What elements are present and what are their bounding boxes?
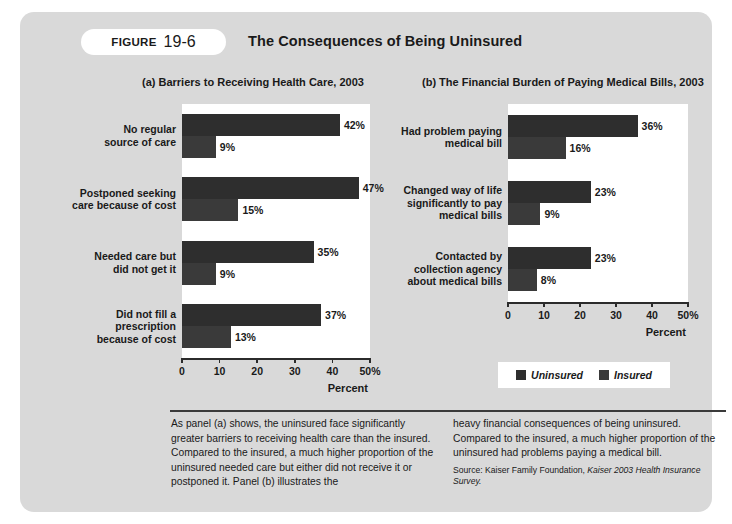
panel-a-bar-insured — [182, 263, 216, 285]
panel-a-bar-value-uninsured: 42% — [344, 119, 365, 131]
legend-label-uninsured: Uninsured — [531, 369, 583, 381]
panel-a-bar-value-uninsured: 47% — [363, 182, 384, 194]
panel-b-x-tick-label: 10 — [538, 309, 550, 321]
panel-b-bar-insured — [508, 203, 540, 225]
panel-a-x-tick — [219, 358, 221, 363]
panel-a-x-tick — [332, 358, 334, 363]
caption-right-column: heavy financial consequences of being un… — [453, 417, 725, 487]
panel-a-x-axis-line — [182, 358, 370, 360]
panel-a-bar-value-insured: 9% — [220, 268, 235, 280]
source-prefix: Source: Kaiser Family Foundation, — [453, 465, 587, 475]
panel-a-x-tick-label: 10 — [214, 365, 226, 377]
panel-a-x-tick — [256, 358, 258, 363]
panel-b-x-tick — [615, 302, 617, 307]
panel-a-bar-insured — [182, 136, 216, 158]
panel-b-category-label: Contacted bycollection agencyabout medic… — [396, 250, 502, 288]
panel-b-x-tick-label: 40 — [646, 309, 658, 321]
panel-a-bar-uninsured — [182, 304, 321, 326]
panel-b-x-tick-label: 20 — [574, 309, 586, 321]
legend-item-uninsured: Uninsured — [516, 369, 583, 381]
figure-title: The Consequences of Being Uninsured — [248, 33, 522, 49]
panel-b-x-tick — [687, 302, 689, 307]
panel-a-x-tick — [181, 358, 183, 363]
panel-a-bar-value-insured: 13% — [235, 331, 256, 343]
panel-b-bar-value-uninsured: 23% — [595, 252, 616, 264]
figure-word-label: FIGURE — [111, 36, 156, 48]
panel-a-bar-uninsured — [182, 177, 359, 199]
panel-b-x-tick — [579, 302, 581, 307]
panel-b-bar-value-uninsured: 23% — [595, 186, 616, 198]
panel-a-bar-uninsured — [182, 114, 340, 136]
panel-a-bar-value-insured: 15% — [242, 204, 263, 216]
panel-a-category-label: No regularsource of care — [70, 123, 176, 148]
panel-a-x-tick-label: 30 — [289, 365, 301, 377]
panel-a-bar-value-insured: 9% — [220, 141, 235, 153]
figure-number-label: 19-6 — [164, 33, 196, 51]
panel-a-category-label: Postponed seekingcare because of cost — [70, 187, 176, 212]
panel-b-bar-value-uninsured: 36% — [642, 120, 663, 132]
panel-a-x-tick — [369, 358, 371, 363]
source-line: Source: Kaiser Family Foundation, Kaiser… — [453, 465, 725, 487]
panel-a-x-tick-label: 40 — [327, 365, 339, 377]
panel-a-title: (a) Barriers to Receiving Health Care, 2… — [142, 76, 364, 88]
figure-card: FIGURE 19-6 The Consequences of Being Un… — [20, 12, 712, 512]
panel-a-category-label: Needed care butdid not get it — [70, 250, 176, 275]
legend-swatch-uninsured — [516, 370, 526, 380]
panel-b-x-tick-label: 50% — [677, 309, 698, 321]
panel-b-x-tick — [543, 302, 545, 307]
legend-item-insured: Insured — [599, 369, 652, 381]
panel-b-x-tick — [507, 302, 509, 307]
legend-swatch-insured — [599, 370, 609, 380]
panel-b-x-tick-label: 30 — [610, 309, 622, 321]
panel-a-bar-value-uninsured: 35% — [318, 246, 339, 258]
panel-b-bar-uninsured — [508, 247, 591, 269]
panel-b-bar-value-insured: 8% — [541, 274, 556, 286]
panel-a-x-tick-label: 0 — [179, 365, 185, 377]
panel-b-bar-value-insured: 16% — [570, 142, 591, 154]
panel-b-x-axis-line — [508, 302, 688, 304]
panel-b-bar-uninsured — [508, 115, 638, 137]
panel-a-category-label: Did not fill aprescriptionbecause of cos… — [70, 308, 176, 346]
panel-a-x-axis-label: Percent — [328, 382, 368, 394]
chart-legend: Uninsured Insured — [498, 362, 670, 388]
panel-b-bar-insured — [508, 137, 566, 159]
panel-b-category-label: Had problem payingmedical bill — [396, 125, 502, 150]
panel-b-x-tick — [651, 302, 653, 307]
panel-a-bar-insured — [182, 199, 238, 221]
footer-divider — [170, 410, 726, 412]
panel-a-x-tick — [294, 358, 296, 363]
legend-label-insured: Insured — [614, 369, 652, 381]
panel-b-bar-value-insured: 9% — [544, 208, 559, 220]
panel-a-x-tick-label: 50% — [359, 365, 380, 377]
figure-number-tab: FIGURE 19-6 — [81, 29, 226, 55]
panel-a-bar-uninsured — [182, 241, 314, 263]
panel-b-category-label: Changed way of lifesignificantly to paym… — [396, 184, 502, 222]
caption-right-text: heavy financial consequences of being un… — [453, 418, 715, 458]
panel-b-bar-uninsured — [508, 181, 591, 203]
panel-b-bar-insured — [508, 269, 537, 291]
panel-b-title: (b) The Financial Burden of Paying Medic… — [422, 76, 704, 88]
panel-a-bar-insured — [182, 326, 231, 348]
panel-a-x-tick-label: 20 — [251, 365, 263, 377]
panel-a-bar-value-uninsured: 37% — [325, 309, 346, 321]
panel-b-x-axis-label: Percent — [646, 326, 686, 338]
panel-b-x-tick-label: 0 — [505, 309, 511, 321]
caption-left-column: As panel (a) shows, the uninsured face s… — [171, 417, 439, 490]
